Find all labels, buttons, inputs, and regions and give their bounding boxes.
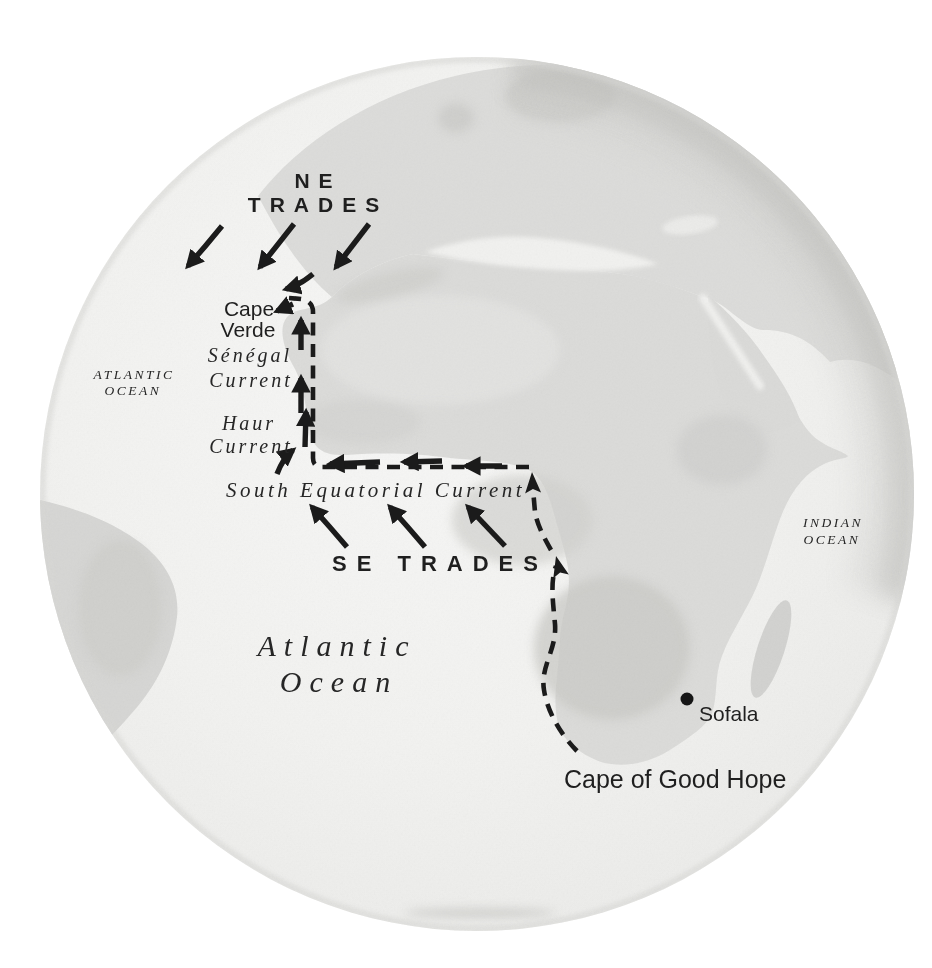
label-atlantic-ocean-small-line1: ATLANTIC bbox=[92, 367, 174, 382]
label-sofala: Sofala bbox=[699, 702, 759, 725]
label-atlantic-ocean-large-line2: Ocean bbox=[280, 665, 398, 698]
label-atlantic-ocean-large-line1: Atlantic bbox=[256, 629, 417, 662]
label-ne-trades-line1: NE bbox=[294, 169, 341, 192]
coastal-current-arrow-3 bbox=[305, 412, 306, 447]
label-cape-verde-line1: Cape bbox=[224, 297, 274, 320]
label-indian-ocean-line2: OCEAN bbox=[804, 532, 861, 547]
label-indian-ocean-line1: INDIAN bbox=[802, 515, 863, 530]
label-atlantic-ocean-small-line2: OCEAN bbox=[105, 383, 162, 398]
label-senegal-current-line2: Current bbox=[209, 369, 293, 391]
label-cape-of-good-hope: Cape of Good Hope bbox=[564, 765, 786, 793]
label-cape-verde-line2: Verde bbox=[221, 318, 276, 341]
label-se-trades: SE TRADES bbox=[332, 551, 548, 576]
world-map-globe: NE TRADES Cape Verde Sénégal Current Hau… bbox=[0, 0, 932, 968]
equatorial-current-arrow-1 bbox=[330, 462, 380, 464]
label-senegal-current-line1: Sénégal bbox=[208, 344, 292, 367]
equatorial-current-arrow-2 bbox=[404, 461, 442, 462]
label-south-equatorial-current: South Equatorial Current bbox=[226, 478, 525, 502]
label-haur-current-line2: Current bbox=[209, 435, 293, 457]
label-haur-current-line1: Haur bbox=[221, 412, 276, 434]
label-ne-trades-line2: TRADES bbox=[248, 193, 388, 216]
sofala-dot bbox=[681, 693, 694, 706]
map-page: NE TRADES Cape Verde Sénégal Current Hau… bbox=[0, 0, 932, 968]
